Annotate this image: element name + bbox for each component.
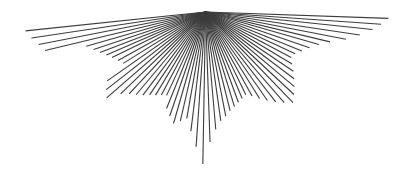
figure-canvas [0, 0, 408, 173]
ray-group [25, 12, 388, 164]
radial-fan-diagram [0, 0, 408, 173]
